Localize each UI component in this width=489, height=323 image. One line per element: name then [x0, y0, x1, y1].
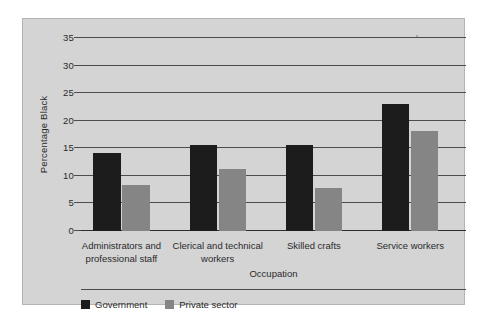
y-tick-mark-5: [74, 202, 81, 203]
bars-group: Administrators and professional staffCle…: [81, 38, 466, 231]
legend-divider: [81, 289, 466, 290]
bar-government: [93, 153, 120, 231]
bar-government: [286, 145, 313, 231]
bar-private-sector: [122, 185, 149, 231]
legend-item: Government: [81, 299, 147, 310]
legend-label: Government: [95, 299, 147, 310]
y-tick-label-5: 5: [69, 197, 74, 208]
bar-private-sector: [219, 169, 246, 231]
y-tick-label-0: 0: [69, 225, 74, 236]
bar-group: Clerical and technical workers: [177, 38, 273, 231]
y-tick-label-20: 20: [63, 114, 74, 125]
bar-group: Service workers: [370, 38, 466, 231]
y-tick-label-30: 30: [63, 59, 74, 70]
bar-group: Administrators and professional staff: [81, 38, 177, 231]
y-axis-title-text: Percentage Black: [39, 96, 50, 174]
x-axis-title: Occupation: [81, 268, 466, 279]
figure-panel: Percentage Black 35302520151050 Administ…: [22, 18, 465, 305]
y-tick-mark-20: [74, 120, 81, 121]
legend-swatch-government: [81, 300, 90, 309]
legend-item: Private sector: [165, 299, 237, 310]
bar-group: Skilled crafts: [274, 38, 370, 231]
x-category-label: Service workers: [351, 240, 469, 253]
y-tick-mark-25: [74, 92, 81, 93]
y-tick-label-35: 35: [63, 32, 74, 43]
y-axis-title: Percentage Black: [37, 38, 51, 231]
legend-label: Private sector: [179, 299, 237, 310]
y-tick-label-25: 25: [63, 87, 74, 98]
plot-area: 35302520151050 Administrators and profes…: [81, 38, 466, 231]
bar-government: [382, 104, 409, 231]
chart-legend: GovernmentPrivate sector: [81, 299, 237, 310]
bar-private-sector: [315, 188, 342, 231]
y-tick-mark-10: [74, 175, 81, 176]
y-tick-mark-30: [74, 65, 81, 66]
bar-government: [190, 145, 217, 231]
y-tick-label-15: 15: [63, 142, 74, 153]
y-tick-mark-15: [74, 147, 81, 148]
y-tick-mark-0: [74, 230, 81, 231]
y-tick-label-10: 10: [63, 169, 74, 180]
bar-private-sector: [411, 131, 438, 231]
legend-swatch-private-sector: [165, 300, 174, 309]
y-tick-mark-35: [74, 37, 81, 38]
